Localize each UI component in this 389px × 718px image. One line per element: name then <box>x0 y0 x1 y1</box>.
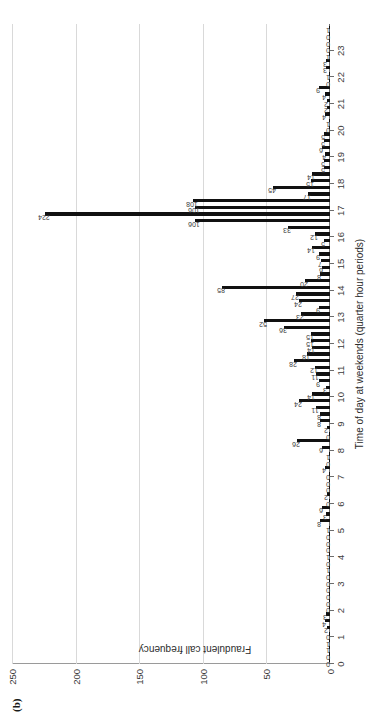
hour-label: 2 <box>335 608 346 613</box>
bar-value-label: 1 <box>326 121 330 128</box>
x-axis-title: Time of day at weekends (quarter hour pe… <box>354 24 365 664</box>
bar-value-label: 3 <box>323 67 327 74</box>
bar-value-label: 15 <box>306 181 314 188</box>
hour-tick <box>330 423 334 424</box>
bar-value-label: 0 <box>326 434 330 441</box>
bar-value-label: 18 <box>302 354 310 361</box>
hour-tick <box>330 210 334 211</box>
gridline <box>12 24 13 664</box>
bar-value-label: 0 <box>326 47 330 54</box>
bar-value-label: 11 <box>311 374 318 381</box>
bar: 9 <box>319 306 330 310</box>
bar-value-label: 9 <box>316 307 320 314</box>
bar-value-label: 1 <box>326 567 330 574</box>
bar-value-label: 0 <box>326 561 330 568</box>
bar-value-label: 0 <box>326 574 330 581</box>
hour-label: 6 <box>335 501 346 506</box>
bar-value-label: 0 <box>326 654 330 661</box>
hour-label: 5 <box>335 528 346 533</box>
gridline <box>139 24 140 664</box>
bar-value-label: 2 <box>325 101 329 108</box>
bar-value-label: 6 <box>319 447 323 454</box>
hour-tick <box>330 450 334 451</box>
bar-value-label: 6 <box>319 507 323 514</box>
bar-value-label: 108 <box>186 201 198 208</box>
bar-value-label: 15 <box>306 334 314 341</box>
bar-value-label: 3 <box>323 61 327 68</box>
bar: 45 <box>273 186 330 190</box>
hour-label: 9 <box>335 421 346 426</box>
rotated-figure-wrapper: (b) 050100150200250 00110243000000101000… <box>0 0 389 718</box>
bar: 1 <box>329 452 330 456</box>
hour-label: 21 <box>335 99 346 110</box>
hour-tick <box>330 263 334 264</box>
bar-value-label: 0 <box>326 461 330 468</box>
bar: 9 <box>319 379 330 383</box>
bar-value-label: 8 <box>317 421 321 428</box>
bar-value-label: 0 <box>326 474 330 481</box>
bar-value-label: 17 <box>303 194 311 201</box>
bar-value-label: 0 <box>326 547 330 554</box>
hour-label: 11 <box>335 366 346 376</box>
bar-value-label: 0 <box>326 661 330 668</box>
bar-value-label: 2 <box>325 627 329 634</box>
bar-value-label: 9 <box>316 254 320 261</box>
bar-value-label: 106 <box>188 207 200 214</box>
bar-value-label: 1 <box>326 554 330 561</box>
hour-label: 13 <box>335 312 346 323</box>
hour-tick <box>330 370 334 371</box>
y-axis-line <box>12 663 330 664</box>
bar-value-label: 4 <box>322 467 326 474</box>
y-tick-label: 50 <box>261 669 272 680</box>
bar-value-label: 7 <box>318 261 322 268</box>
bar: 7 <box>321 259 330 263</box>
bar: 2 <box>327 626 330 630</box>
bar-value-label: 45 <box>268 187 276 194</box>
bar: 27 <box>296 292 330 296</box>
bar-value-label: 33 <box>283 227 291 234</box>
bar-value-label: 0 <box>326 41 330 48</box>
bar-value-label: 2 <box>325 427 329 434</box>
bar: 4 <box>325 152 330 156</box>
y-axis-title: Fraudulent call frequency <box>138 644 250 655</box>
panel-label: (b) <box>10 699 22 712</box>
hour-label: 16 <box>335 232 346 243</box>
hour-label: 18 <box>335 179 346 190</box>
bar: 4 <box>325 92 330 96</box>
hour-tick <box>330 156 334 157</box>
bar: 5 <box>324 239 330 243</box>
bar-value-label: 2 <box>325 107 329 114</box>
bar-value-label: 1 <box>326 641 330 648</box>
bar-value-label: 5 <box>321 167 325 174</box>
bar-value-label: 0 <box>326 534 330 541</box>
bar: 6 <box>322 266 330 270</box>
bar-value-label: 0 <box>326 81 330 88</box>
bar-value-label: 6 <box>319 147 323 154</box>
bar-value-label: 24 <box>295 401 303 408</box>
gridline <box>76 24 77 664</box>
bar: 2 <box>327 99 330 103</box>
bar: 14 <box>312 346 330 350</box>
bar-value-label: 2 <box>325 494 329 501</box>
y-tick-label: 250 <box>7 669 18 685</box>
hour-tick <box>330 556 334 557</box>
gridline <box>203 24 204 664</box>
bar: 85 <box>222 286 330 290</box>
bar-value-label: 5 <box>321 161 325 168</box>
hour-tick <box>330 583 334 584</box>
bar-value-label: 14 <box>307 174 315 181</box>
hour-tick <box>330 530 334 531</box>
hour-label: 10 <box>335 392 346 403</box>
bar-value-label: 36 <box>279 327 287 334</box>
bar-value-label: 224 <box>38 214 50 221</box>
hour-tick <box>330 236 334 237</box>
figure-panel: (b) 050100150200250 00110243000000101000… <box>0 0 389 718</box>
bar-value-label: 0 <box>326 487 330 494</box>
bar-value-label: 1 <box>326 27 330 34</box>
hour-tick <box>330 610 334 611</box>
bar: 12 <box>315 366 330 370</box>
hour-label: 7 <box>335 475 346 480</box>
bar: 11 <box>316 406 330 410</box>
bar: 106 <box>195 206 330 210</box>
bar-value-label: 5 <box>321 134 325 141</box>
